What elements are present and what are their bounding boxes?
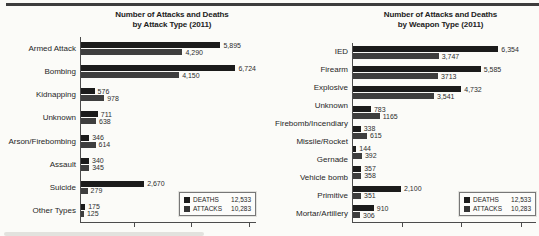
deaths-bar	[81, 158, 89, 164]
deaths-bar-row: 346	[81, 135, 256, 141]
legend-swatch-attacks	[464, 206, 470, 212]
deaths-bar-row: 2,670	[81, 181, 256, 187]
attacks-value-label: 306	[363, 212, 375, 219]
attacks-bar-row: 358	[353, 173, 536, 179]
attacks-bar	[353, 153, 362, 159]
category-label: Kidnapping	[0, 91, 76, 99]
category-label: Missile/Rocket	[266, 138, 348, 146]
attacks-bar	[353, 53, 439, 59]
deaths-bar	[81, 204, 85, 210]
deaths-value-label: 6,354	[501, 46, 519, 53]
attacks-value-label: 1165	[383, 113, 398, 120]
deaths-bar-row: 711	[81, 111, 256, 117]
category-labels: Armed AttackBombingKidnappingUnknownArso…	[0, 37, 80, 223]
scan-artifact	[4, 232, 204, 236]
deaths-bar-row: 340	[81, 158, 256, 164]
bar-pair: 6,3543,747	[353, 46, 536, 59]
attacks-bar-row: 3713	[353, 73, 536, 79]
chart-title: Number of Attacks and Deaths by Weapon T…	[346, 10, 535, 29]
attacks-bar-row: 3,541	[353, 93, 536, 99]
deaths-value-label: 340	[92, 157, 104, 164]
bar-pair: 6,7244,150	[81, 65, 256, 78]
category-label: Primitive	[266, 192, 348, 200]
attacks-bar	[81, 49, 182, 55]
attacks-bar	[81, 211, 84, 217]
weapon-type-chart: Number of Attacks and Deaths by Weapon T…	[266, 10, 539, 223]
axis-tick	[521, 223, 522, 227]
chart-title: Number of Attacks and Deaths by Attack T…	[78, 10, 266, 29]
deaths-value-label: 357	[364, 165, 376, 172]
deaths-bar-row: 6,724	[81, 65, 256, 71]
attacks-value-label: 3,541	[437, 93, 455, 100]
bar-pair: 5,8954,290	[81, 42, 256, 55]
chart-title-line1: Number of Attacks and Deaths	[78, 10, 266, 20]
attacks-bar	[81, 165, 89, 171]
deaths-bar	[353, 126, 361, 132]
deaths-bar	[353, 46, 498, 52]
category-label: Gernade	[266, 156, 348, 164]
deaths-bar-row: 2,100	[353, 186, 536, 192]
attack-type-chart: Number of Attacks and Deaths by Attack T…	[0, 10, 266, 223]
attacks-bar	[81, 118, 96, 124]
attacks-bar-row: 4,290	[81, 49, 256, 55]
legend-box: DEATHS12,533ATTACKS10,283	[459, 192, 536, 216]
bar-pair: 576978	[81, 88, 256, 101]
legend-series-total: 10,283	[227, 205, 251, 212]
legend-box: DEATHS12,533ATTACKS10,283	[179, 192, 256, 216]
plot-area: DEATHS12,533ATTACKS10,283 6,3543,7475,58…	[352, 43, 536, 223]
legend-series-total: 10,283	[507, 205, 531, 212]
attacks-value-label: 345	[92, 164, 104, 171]
attacks-bar-row: 1165	[353, 113, 536, 119]
attacks-value-label: 392	[365, 152, 377, 159]
category-label: Vehicle bomb	[266, 174, 348, 182]
deaths-value-label: 2,100	[404, 185, 422, 192]
legend-series-total: 12,533	[507, 196, 531, 203]
attacks-value-label: 125	[87, 210, 99, 217]
deaths-value-label: 338	[364, 125, 376, 132]
category-label: Other Types	[0, 207, 76, 215]
attacks-bar-row: 345	[81, 165, 256, 171]
bar-pair: 346614	[81, 135, 256, 148]
chart-title-line2: by Attack Type (2011)	[78, 20, 266, 30]
attacks-bar	[353, 73, 438, 79]
legend-series-total: 12,533	[227, 196, 251, 203]
attacks-value-label: 279	[91, 187, 103, 194]
attacks-bar	[81, 142, 96, 148]
bar-pair: 711638	[81, 111, 256, 124]
deaths-bar-row: 357	[353, 166, 536, 172]
bar-pair: 4,7323,541	[353, 86, 536, 99]
category-label: Unknown	[0, 114, 76, 122]
legend-series-label: ATTACKS	[193, 205, 224, 212]
deaths-bar	[353, 166, 361, 172]
report-page-fragment: Number of Attacks and Deaths by Attack T…	[0, 0, 539, 236]
deaths-bar-row: 6,354	[353, 46, 536, 52]
deaths-bar	[353, 106, 371, 112]
category-label: Suicide	[0, 184, 76, 192]
bar-pair: 357358	[353, 166, 536, 179]
chart-title-line1: Number of Attacks and Deaths	[346, 10, 535, 20]
chart-body: Armed AttackBombingKidnappingUnknownArso…	[0, 37, 266, 223]
category-label: Mortar/Artillery	[266, 210, 348, 218]
attacks-bar-row: 4,150	[81, 72, 256, 78]
deaths-value-label: 6,724	[238, 65, 256, 72]
deaths-bar	[81, 135, 89, 141]
bar-pair: 7831165	[353, 106, 536, 119]
attacks-value-label: 3713	[441, 73, 457, 80]
bar-pair: 340345	[81, 158, 256, 171]
deaths-value-label: 910	[377, 205, 389, 212]
deaths-bar	[81, 65, 235, 71]
legend-row: DEATHS12,533	[464, 196, 531, 203]
attacks-bar	[81, 72, 179, 78]
deaths-bar	[353, 186, 401, 192]
deaths-bar-row: 5,895	[81, 42, 256, 48]
deaths-bar-row: 4,732	[353, 86, 536, 92]
legend-series-label: ATTACKS	[473, 205, 504, 212]
attacks-bar	[353, 212, 360, 218]
bar-pair: 144392	[353, 146, 536, 159]
deaths-bar	[81, 111, 98, 117]
attacks-bar-row: 978	[81, 95, 256, 101]
deaths-bar	[353, 86, 461, 92]
deaths-value-label: 2,670	[147, 180, 165, 187]
deaths-bar	[81, 42, 220, 48]
deaths-bar-row: 338	[353, 126, 536, 132]
